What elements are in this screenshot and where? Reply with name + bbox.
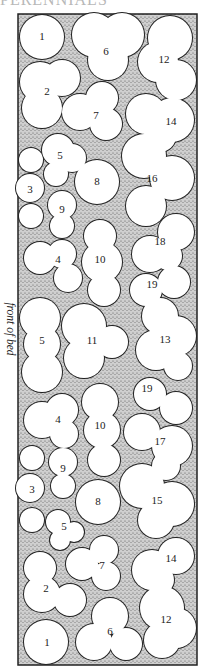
plant-label-1b: 1	[44, 636, 50, 648]
plant-label-16: 16	[147, 172, 159, 184]
plant-label-14: 14	[166, 115, 178, 127]
plant-label-8a: 8	[94, 175, 100, 187]
plant-label-8b: 8	[95, 495, 101, 507]
plant-label-5c: 5	[61, 520, 67, 532]
plant-label-2b: 2	[43, 582, 49, 594]
plant-label-3b: 3	[29, 483, 35, 495]
plant-label-7b: 7	[99, 559, 105, 571]
plant-label-5a: 5	[57, 149, 63, 161]
plant-label-10a: 10	[95, 253, 107, 265]
plant-label-18: 18	[155, 235, 167, 247]
plant-label-13: 13	[160, 333, 172, 345]
plant-label-17: 17	[155, 435, 167, 447]
plant-label-11: 11	[87, 334, 98, 346]
plant-label-19b: 19	[142, 382, 154, 394]
plant-label-1: 1	[39, 30, 45, 42]
plant-label-10b: 10	[95, 419, 107, 431]
plant-label-9a: 9	[59, 203, 65, 215]
plant-label-12b: 12	[161, 613, 172, 625]
plant-label-2: 2	[44, 85, 50, 97]
plant-label-6: 6	[103, 45, 109, 57]
plant-label-12: 12	[159, 53, 170, 65]
plant-label-4b: 4	[55, 413, 61, 425]
plant-label-19a: 19	[147, 278, 159, 290]
plant-label-15: 15	[152, 494, 164, 506]
plant-label-4a: 4	[55, 253, 61, 265]
planting-bed-diagram: 1612271453816941018195111319410173981557…	[0, 0, 204, 667]
plant-label-3a: 3	[27, 183, 33, 195]
plant-label-9b: 9	[60, 462, 66, 474]
plant-label-7: 7	[93, 109, 99, 121]
plant-label-14b: 14	[166, 552, 178, 564]
plant-label-5b: 5	[39, 334, 45, 346]
plant-label-6b: 6	[107, 625, 113, 637]
